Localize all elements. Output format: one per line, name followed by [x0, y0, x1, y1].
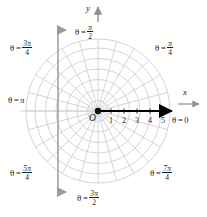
fraction: 7π 4	[162, 165, 172, 182]
theta-symbol: θ	[10, 169, 14, 178]
polar-grid-graphic	[0, 0, 207, 217]
angle-label-3pi-over-2: θ = 3π 2	[77, 190, 99, 207]
equals-symbol: =	[83, 194, 88, 203]
fraction: 3π 2	[89, 190, 99, 207]
theta-symbol: θ	[75, 28, 79, 37]
fraction-denominator: 2	[92, 198, 96, 206]
tick-label-5: 5	[158, 117, 168, 125]
angle-label-zero: θ = 0	[172, 116, 189, 125]
x-axis-label: x	[183, 88, 187, 97]
tick-label-4: 4	[145, 117, 155, 125]
angle-label-pi: θ = π	[8, 96, 25, 105]
y-axis-label: y	[86, 4, 90, 13]
equals-symbol: =	[16, 44, 21, 53]
equals-symbol: =	[81, 28, 86, 37]
angle-label-3pi-over-4: θ = 3π 4	[10, 40, 32, 57]
fraction-denominator: 4	[168, 48, 172, 56]
fraction-denominator: 4	[25, 48, 29, 56]
theta-symbol: θ	[77, 194, 81, 203]
fraction: 5π 4	[22, 165, 32, 182]
origin-label: O	[89, 114, 96, 124]
theta-symbol: θ	[150, 169, 154, 178]
theta-symbol: θ	[155, 44, 159, 53]
fraction: π 4	[167, 40, 173, 57]
angle-value: π	[20, 96, 24, 105]
angle-label-pi-over-4: θ = π 4	[155, 40, 173, 57]
angle-value: 0	[184, 116, 188, 125]
equals-symbol: =	[16, 169, 21, 178]
tick-label-1: 1	[106, 117, 116, 125]
tick-label-2: 2	[119, 117, 129, 125]
theta-symbol: θ	[8, 96, 12, 105]
fraction: 3π 4	[22, 40, 32, 57]
angle-label-7pi-over-4: θ = 7π 4	[150, 165, 172, 182]
tick-label-3: 3	[132, 117, 142, 125]
equals-symbol: =	[14, 96, 19, 105]
fraction: π 2	[87, 24, 93, 41]
equals-symbol: =	[178, 116, 183, 125]
angle-label-pi-over-2: θ = π 2	[75, 24, 93, 41]
fraction-denominator: 4	[165, 173, 169, 181]
angle-label-5pi-over-4: θ = 5π 4	[10, 165, 32, 182]
fraction-denominator: 4	[25, 173, 29, 181]
polar-coordinate-figure: x y O 1 2 3 4 5 θ = π 2 θ = π 4 θ	[0, 0, 207, 217]
theta-symbol: θ	[172, 116, 176, 125]
fraction-denominator: 2	[88, 32, 92, 40]
theta-symbol: θ	[10, 44, 14, 53]
equals-symbol: =	[156, 169, 161, 178]
equals-symbol: =	[161, 44, 166, 53]
